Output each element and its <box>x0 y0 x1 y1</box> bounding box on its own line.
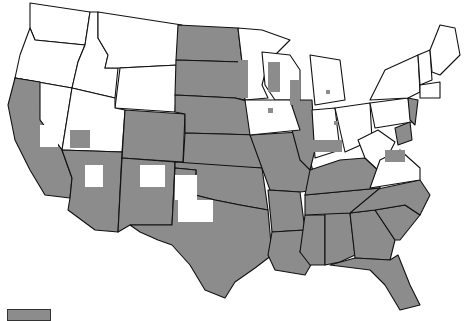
state-ma-ct-ri <box>420 82 440 98</box>
state-nd <box>176 25 242 62</box>
state-mi <box>310 55 345 105</box>
state-me <box>430 25 460 75</box>
state-polygons <box>8 3 185 232</box>
state-ia <box>245 100 300 135</box>
legend-swatch <box>7 309 51 321</box>
state-ks <box>183 133 262 168</box>
legend <box>7 309 69 321</box>
state-ny <box>370 55 420 100</box>
state-wy <box>115 65 178 112</box>
state-mt <box>98 12 182 68</box>
state-md-de <box>395 122 412 145</box>
state-ar <box>268 190 305 232</box>
state-ms <box>300 215 325 265</box>
state-fl <box>330 255 420 310</box>
state-az <box>62 150 122 232</box>
state-sd <box>175 60 245 100</box>
state-wa <box>30 3 90 45</box>
state-ky <box>305 158 380 195</box>
state-vt-nh <box>418 50 432 85</box>
